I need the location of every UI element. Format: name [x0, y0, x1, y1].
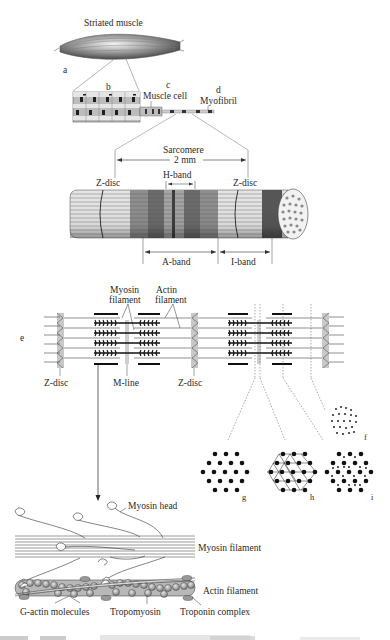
cross-sections: f g h [201, 406, 374, 502]
tropomyosin-label: Tropomyosin [110, 607, 161, 617]
panel-letter-c: c [166, 80, 170, 90]
zoom-line [126, 59, 139, 91]
myofibril-label: Myofibril [200, 96, 237, 106]
g-actin-label: G-actin molecules [20, 607, 90, 617]
troponin-complex-label: Troponin complex [180, 607, 250, 617]
panel-letter-e: e [20, 333, 24, 343]
m-line-bar [257, 320, 261, 364]
h-band-label: H-band [163, 170, 192, 180]
striated-muscle-title: Striated muscle [84, 18, 143, 28]
panel-letter-b: b [106, 82, 111, 92]
m-line-bar [125, 320, 129, 364]
actin-filament-label-line1: Actin [156, 285, 177, 295]
myosin-heads [15, 502, 165, 586]
cross-section-f [331, 406, 357, 435]
myosin-filament-label-line2: filament [109, 295, 141, 305]
i-band-label: I-band [231, 257, 256, 267]
myosin-filament-label: Myosin filament [198, 543, 261, 553]
tendon [180, 40, 184, 51]
tendon [54, 48, 59, 51]
cross-section-letter-f: f [364, 432, 367, 442]
a-band-label: A-band [162, 257, 191, 267]
actin-filament-label: Actin filament [203, 586, 258, 596]
panel-b-fiber-bundle: b [73, 82, 140, 122]
myosin-head-label: Myosin head [128, 501, 178, 511]
z-disc-label-e-right: Z-disc [178, 378, 202, 388]
muscle-cell-label: Muscle cell [143, 91, 187, 101]
cross-section-letter-g: g [242, 492, 247, 502]
cross-section-i [325, 452, 374, 493]
panel-letter-d: d [216, 85, 221, 95]
z-disc-label-right: Z-disc [233, 178, 257, 188]
cross-section-g [201, 452, 250, 493]
muscle-structure-diagram: Striated muscle a b [0, 0, 390, 640]
z-disc-label-e-left: Z-disc [44, 378, 68, 388]
myofibril-strand [162, 110, 214, 113]
sarcomere-cylinder-panel: Sarcomere 2 mm Z-disc Z-disc H-band [70, 145, 308, 267]
cross-section-h [267, 452, 317, 493]
molecular-detail-panel: Myosin head Myosin filament Actin filame… [15, 501, 261, 617]
myosin-filament-label-line1: Myosin [110, 285, 139, 295]
figure-caption-cutoff [0, 635, 360, 640]
panel-letter-a: a [63, 65, 68, 75]
cross-section-letter-h: h [310, 492, 315, 502]
sarcomere-title: Sarcomere [163, 145, 204, 155]
panel-a-striated-muscle: Striated muscle a [54, 18, 184, 91]
cross-section-letter-i: i [371, 492, 374, 502]
sarcomere-length: 2 mm [174, 155, 197, 165]
m-line-label: M-line [113, 378, 139, 388]
myosin-filament-bundle [15, 536, 195, 557]
actin-filament-label-line2: filament [155, 295, 187, 305]
z-disc-label-left: Z-disc [96, 178, 120, 188]
fiber-bundle-cells [73, 92, 140, 122]
panel-e-sarcomere-schematic: e Myosin filament Actin filament [20, 285, 344, 501]
